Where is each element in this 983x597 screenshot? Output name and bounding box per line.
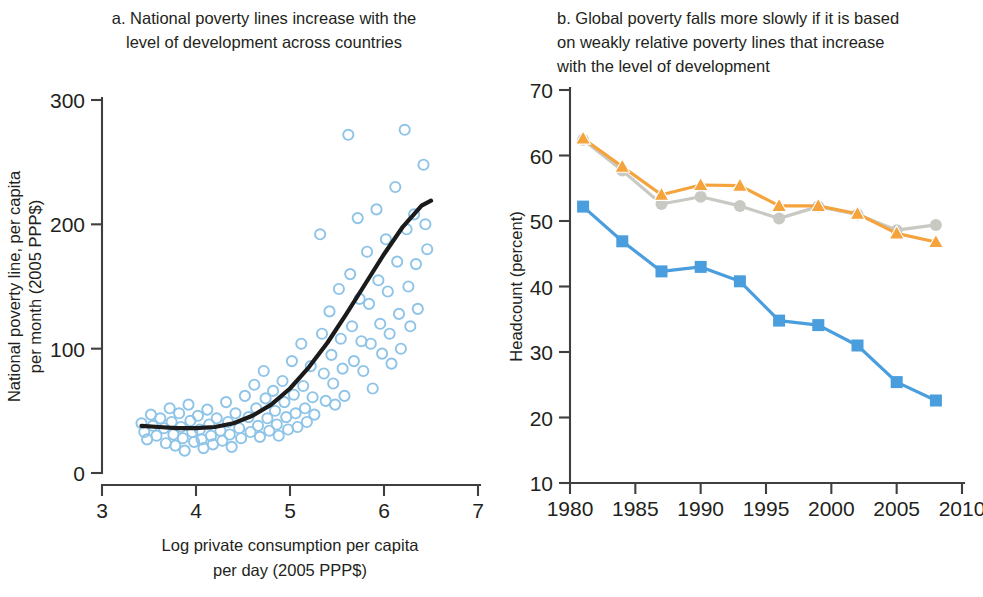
scatter-point — [240, 391, 250, 401]
y-axis-title-line: Headcount (percent) — [507, 211, 525, 361]
scatter-point — [411, 259, 421, 269]
scatter-point — [183, 400, 193, 410]
y-tick-label: 30 — [530, 341, 553, 364]
scatter-point — [268, 386, 278, 396]
scatter-point — [309, 410, 319, 420]
y-tick-label: 300 — [50, 89, 85, 112]
scatter-point — [385, 329, 395, 339]
scatter-point — [418, 160, 428, 170]
scatter-point — [249, 380, 259, 390]
marker-square — [656, 265, 668, 277]
scatter-point — [315, 229, 325, 239]
scatter-point — [420, 219, 430, 229]
panel-a-scatter: a. National poverty lines increase with … — [0, 0, 500, 597]
scatter-point — [392, 257, 402, 267]
x-tick-label: 7 — [472, 499, 484, 522]
scatter-point — [296, 339, 306, 349]
series-line-1 — [583, 139, 936, 243]
scatter-point — [383, 286, 393, 296]
x-tick-label: 2010 — [939, 497, 983, 520]
marker-circle — [695, 191, 707, 203]
marker-square — [891, 376, 903, 388]
scatter-point — [328, 378, 338, 388]
y-tick-label: 0 — [73, 462, 85, 485]
marker-square — [930, 395, 942, 407]
scatter-point — [422, 244, 432, 254]
x-axis-title-line: per day (2005 PPP$) — [213, 561, 367, 579]
scatter-point — [289, 390, 299, 400]
marker-square — [577, 201, 589, 213]
scatter-point — [174, 408, 184, 418]
scatter-point — [396, 344, 406, 354]
panel-a-plot: 010020030034567National poverty line, pe… — [0, 0, 500, 597]
scatter-point — [373, 275, 383, 285]
series-line-0 — [583, 207, 936, 401]
scatter-point — [319, 368, 329, 378]
x-tick-label: 3 — [96, 499, 108, 522]
scatter-point — [353, 213, 363, 223]
x-tick-label: 5 — [284, 499, 296, 522]
scatter-point — [390, 182, 400, 192]
y-tick-label: 60 — [530, 145, 553, 168]
scatter-point — [300, 403, 310, 413]
marker-square — [695, 261, 707, 273]
x-tick-label: 1995 — [743, 497, 790, 520]
scatter-point — [405, 321, 415, 331]
scatter-point — [330, 400, 340, 410]
y-axis-title: National poverty line, per capitaper mon… — [5, 170, 44, 402]
marker-square — [616, 235, 628, 247]
panel-b-line-chart: b. Global poverty falls more slowly if i… — [500, 0, 983, 597]
scatter-point — [345, 269, 355, 279]
scatter-point — [403, 281, 413, 291]
scatter-point — [358, 366, 368, 376]
marker-circle — [773, 212, 785, 224]
marker-square — [852, 340, 864, 352]
scatter-point — [227, 442, 237, 452]
scatter-point — [362, 247, 372, 257]
scatter-point — [375, 319, 385, 329]
scatter-point — [225, 429, 235, 439]
scatter-point — [270, 406, 280, 416]
x-tick-label: 4 — [190, 499, 202, 522]
y-axis-title-line: per month (2005 PPP$) — [26, 200, 44, 373]
scatter-point — [221, 397, 231, 407]
marker-square — [773, 315, 785, 327]
marker-square — [812, 319, 824, 331]
y-axis-title-line: National poverty line, per capita — [5, 170, 23, 402]
scatter-point — [364, 299, 374, 309]
y-axis-title: Headcount (percent) — [507, 211, 525, 361]
x-tick-label: 2000 — [808, 497, 855, 520]
y-tick-label: 100 — [50, 338, 85, 361]
scatter-point — [287, 356, 297, 366]
scatter-point — [386, 359, 396, 369]
scatter-point — [178, 433, 188, 443]
scatter-point — [343, 130, 353, 140]
y-tick-label: 200 — [50, 213, 85, 236]
marker-circle — [930, 219, 942, 231]
panel-b-plot: 1020304050607019801985199019952000200520… — [500, 0, 983, 597]
scatter-point — [274, 431, 284, 441]
scatter-point — [377, 349, 387, 359]
y-tick-label: 10 — [530, 472, 553, 495]
y-tick-label: 20 — [530, 407, 553, 430]
scatter-point — [326, 350, 336, 360]
x-tick-label: 1990 — [677, 497, 724, 520]
marker-circle — [734, 200, 746, 212]
scatter-point — [368, 383, 378, 393]
scatter-point — [347, 321, 357, 331]
scatter-point — [334, 284, 344, 294]
scatter-point — [394, 309, 404, 319]
scatter-point — [349, 356, 359, 366]
scatter-point — [253, 421, 263, 431]
scatter-point — [371, 204, 381, 214]
x-axis-title-line: Log private consumption per capita — [162, 536, 420, 554]
y-tick-label: 40 — [530, 276, 553, 299]
y-tick-label: 50 — [530, 210, 553, 233]
scatter-point — [255, 432, 265, 442]
scatter-point — [298, 381, 308, 391]
x-tick-label: 1980 — [547, 497, 594, 520]
x-tick-label: 6 — [378, 499, 390, 522]
scatter-point — [259, 366, 269, 376]
scatter-point — [202, 405, 212, 415]
x-tick-label: 1985 — [612, 497, 659, 520]
